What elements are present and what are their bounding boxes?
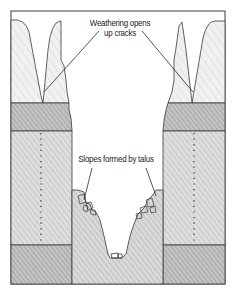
left-dark-band bbox=[11, 103, 72, 131]
right-bottom-dark-band bbox=[163, 245, 225, 284]
left-rock-column bbox=[11, 20, 72, 284]
weathering-label-line2: up cracks bbox=[83, 28, 157, 38]
talus-leader-left bbox=[84, 168, 92, 200]
weathering-label-line1: Weathering opens bbox=[83, 18, 157, 28]
weathering-label: Weathering opens up cracks bbox=[83, 18, 157, 38]
right-upper-weathered-block-b bbox=[168, 22, 192, 103]
right-dark-band bbox=[163, 103, 225, 131]
left-upper-weathered-block-a bbox=[11, 20, 43, 103]
right-upper-weathered-block-a bbox=[192, 21, 225, 103]
canyon-floor-debris bbox=[111, 253, 122, 258]
right-middle-layer bbox=[163, 131, 225, 245]
center-rock-block-with-canyon bbox=[72, 190, 163, 284]
canyon-diagram bbox=[0, 0, 233, 291]
right-rock-column bbox=[163, 21, 225, 284]
left-upper-weathered-block-b bbox=[43, 21, 69, 103]
left-middle-layer bbox=[11, 131, 72, 245]
left-bottom-dark-band bbox=[11, 245, 72, 284]
talus-label: Slopes formed by talus bbox=[64, 154, 167, 164]
talus-leader-right bbox=[146, 168, 156, 196]
